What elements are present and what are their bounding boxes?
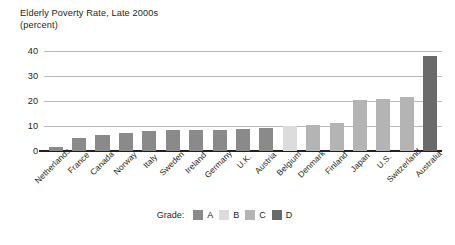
x-axis-tick-label: Finland (322, 149, 349, 176)
x-axis-tick-label: Sweden (157, 149, 186, 178)
bar (189, 130, 203, 151)
y-axis-tick-label: 0 (33, 146, 38, 156)
legend-swatch (245, 210, 255, 220)
bar-slot: Switzerland (395, 51, 418, 151)
legend-label: A (207, 210, 213, 220)
legend-label: D (286, 210, 293, 220)
x-axis-tick-label: Germany (202, 148, 234, 180)
bar-slot: Austria (255, 51, 278, 151)
chart-title: Elderly Poverty Rate, Late 2000s (20, 8, 158, 20)
bar-slot: Denmark (302, 51, 325, 151)
y-axis-tick-label: 40 (28, 46, 38, 56)
bar (166, 130, 180, 151)
legend-title: Grade: (157, 210, 185, 220)
bar (283, 126, 297, 151)
bar (353, 100, 367, 151)
legend-item: B (219, 210, 239, 220)
x-axis-tick-label: Italy (141, 152, 159, 170)
bar (236, 129, 250, 151)
plot-area: 010203040 NetherlandsFranceCanadaNorwayI… (44, 51, 442, 151)
bar (95, 135, 109, 151)
bar-slot: Canada (91, 51, 114, 151)
bar-slot: Ireland (184, 51, 207, 151)
chart-title-block: Elderly Poverty Rate, Late 2000s (percen… (20, 8, 158, 32)
y-axis-tick-label: 20 (28, 96, 38, 106)
bar (142, 131, 156, 151)
bar (213, 130, 227, 152)
bar-slot: Japan (348, 51, 371, 151)
bar-slot: Sweden (161, 51, 184, 151)
chart-subtitle: (percent) (20, 20, 158, 32)
legend: Grade: ABCD (0, 210, 455, 220)
x-axis-tick-label: U.K. (235, 152, 254, 171)
bar (330, 123, 344, 151)
bar-slot: Netherlands (44, 51, 67, 151)
x-axis-tick-label: Japan (348, 150, 371, 173)
y-axis-tick-label: 10 (28, 121, 38, 131)
legend-swatch (272, 210, 282, 220)
legend-label: C (259, 210, 266, 220)
bar-slot: Australia (419, 51, 442, 151)
bar-slot: Italy (138, 51, 161, 151)
y-axis-tick-label: 30 (28, 71, 38, 81)
legend-items: ABCD (193, 210, 298, 220)
bar-slot: Norway (114, 51, 137, 151)
bar-slot: France (67, 51, 90, 151)
bar-slot: Belgium (278, 51, 301, 151)
bar (259, 128, 273, 151)
bar (423, 56, 437, 151)
bar (376, 99, 390, 152)
legend-item: A (193, 210, 213, 220)
x-axis-tick-label: Canada (87, 149, 115, 177)
bar-slot: U.S. (372, 51, 395, 151)
legend-swatch (219, 210, 229, 220)
x-axis-tick-label: Norway (111, 149, 138, 176)
x-axis-tick-label: U.S. (375, 152, 394, 171)
legend-item: D (272, 210, 293, 220)
bar (306, 125, 320, 151)
bar (400, 97, 414, 151)
bar-series: NetherlandsFranceCanadaNorwayItalySweden… (44, 51, 442, 151)
legend-item: C (245, 210, 266, 220)
x-axis-tick-label: Switzerland (384, 146, 422, 184)
legend-label: B (233, 210, 239, 220)
legend-swatch (193, 210, 203, 220)
bar-slot: Finland (325, 51, 348, 151)
bar-slot: Germany (208, 51, 231, 151)
elderly-poverty-rate-chart: Elderly Poverty Rate, Late 2000s (percen… (0, 0, 455, 245)
bar-slot: U.K. (231, 51, 254, 151)
